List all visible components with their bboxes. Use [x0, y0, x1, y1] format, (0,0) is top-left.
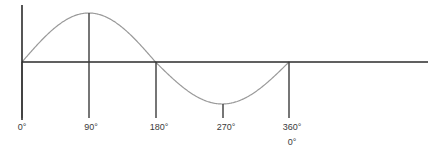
- tick-label-180: 180°: [150, 122, 169, 133]
- tick-label-90: 90°: [84, 122, 98, 133]
- tick-line-group: [22, 13, 289, 118]
- secondary-zero-label: 0°: [288, 137, 297, 148]
- sine-wave-chart: 0°90°180°270°360° 0°: [0, 0, 445, 165]
- sine-plot-canvas: [0, 0, 445, 165]
- tick-label-0: 0°: [18, 122, 27, 133]
- tick-label-360: 360°: [283, 122, 302, 133]
- tick-label-270: 270°: [217, 122, 236, 133]
